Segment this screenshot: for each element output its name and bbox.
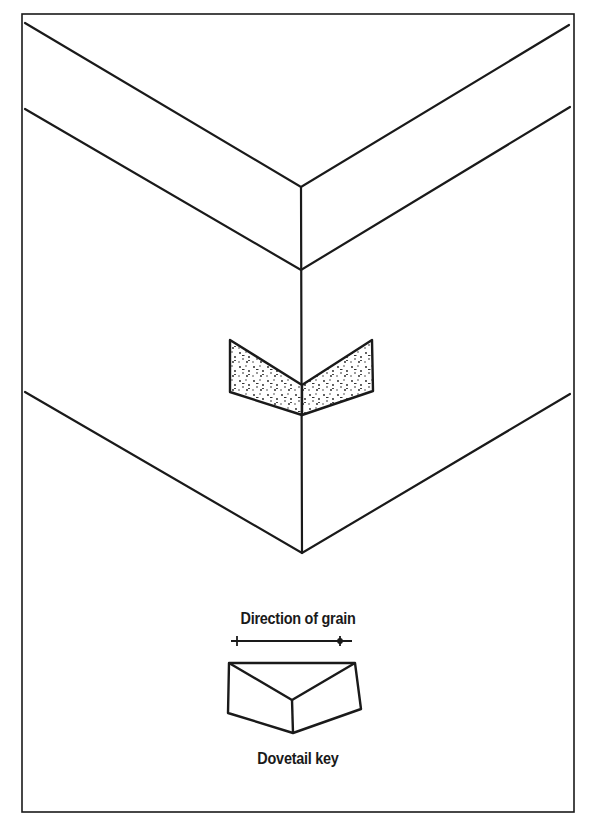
key-inner-v <box>229 663 355 700</box>
middle-edge <box>25 107 570 270</box>
key-inner-edge <box>292 700 293 733</box>
double-ended-arrow-icon <box>231 636 352 646</box>
grain-direction-label: Direction of grain <box>209 609 388 629</box>
key-left-face <box>230 340 302 415</box>
dovetail-key-label: Dovetail key <box>209 749 388 769</box>
key-right-face <box>302 340 373 415</box>
top-edge <box>25 23 569 187</box>
corner-box <box>25 23 570 553</box>
corner-line <box>301 187 302 553</box>
bottom-edge <box>25 392 570 553</box>
dovetail-key-shape <box>228 663 361 733</box>
corner-joint-diagram <box>0 0 595 830</box>
